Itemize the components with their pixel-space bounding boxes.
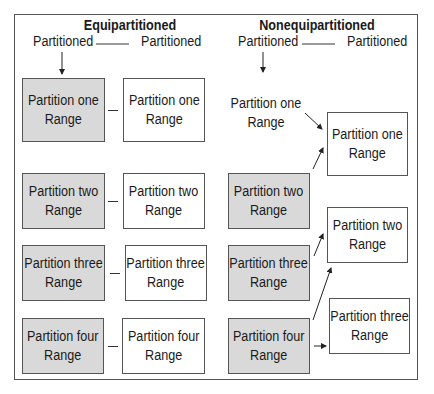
arrow-p4-to-r2-icon (313, 268, 331, 320)
connector-arrows (0, 0, 434, 394)
arrow-p2-to-r1-icon (313, 148, 323, 169)
arrow-p1-to-r1-icon (305, 113, 322, 129)
arrow-p3-to-r2-icon (314, 234, 323, 256)
